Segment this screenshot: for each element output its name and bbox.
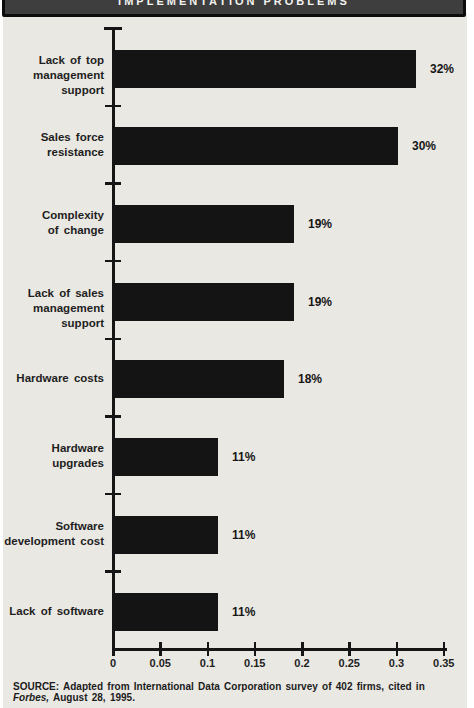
x-tick-label: 0.3: [375, 657, 419, 669]
category-label-line: Sales force: [0, 130, 104, 145]
y-axis-tick: [105, 338, 121, 341]
value-label: 11%: [232, 449, 255, 465]
category-label-line: Lack of sales: [0, 286, 104, 301]
category-label: Softwaredevelopment cost: [0, 519, 104, 549]
category-label-line: development cost: [0, 534, 104, 549]
bar-6: [114, 438, 218, 476]
category-label: Lack of software: [0, 604, 104, 619]
x-tick-label: 0.35: [422, 657, 466, 669]
bar-5: [114, 360, 284, 398]
chart-title: IMPLEMENTATION PROBLEMS: [118, 0, 350, 7]
x-tick-label: 0: [91, 657, 135, 669]
x-tick-label: 0.15: [233, 657, 277, 669]
y-axis-tick: [105, 570, 121, 573]
x-axis-tick: [159, 642, 162, 656]
x-tick-label: 0.05: [138, 657, 182, 669]
category-label-line: Complexity: [0, 208, 104, 223]
value-label: 32%: [430, 61, 454, 77]
y-axis-tick: [105, 260, 121, 263]
category-label-line: of change: [0, 223, 104, 238]
category-label: Hardware costs: [0, 371, 104, 386]
value-label: 19%: [308, 294, 332, 310]
x-axis-tick: [396, 642, 399, 656]
value-label: 19%: [308, 216, 332, 232]
y-axis-tick: [105, 493, 121, 496]
x-tick-label: 0.25: [327, 657, 371, 669]
value-label: 18%: [298, 371, 322, 387]
bar-3: [114, 205, 294, 243]
category-label-line: upgrades: [0, 456, 104, 471]
x-axis-tick: [207, 642, 210, 656]
x-axis-tick: [301, 642, 304, 656]
value-label: 11%: [232, 527, 255, 543]
category-label-line: Lack of software: [0, 604, 104, 619]
y-axis-tick: [105, 182, 121, 185]
y-axis-tick: [105, 415, 121, 418]
y-axis-tick: [105, 105, 121, 108]
category-label-line: Hardware: [0, 441, 104, 456]
value-label: 11%: [232, 604, 255, 620]
x-axis-tick: [254, 642, 257, 656]
source-text-pre: Adapted from International Data Corporat…: [59, 681, 425, 692]
bar-chart: 00.050.10.150.20.250.30.35Lack of topman…: [0, 0, 474, 708]
x-axis-tick: [348, 642, 351, 656]
chart-title-banner: IMPLEMENTATION PROBLEMS: [2, 0, 466, 17]
category-label-line: Lack of top: [0, 53, 104, 68]
source-note: SOURCE: Adapted from International Data …: [13, 681, 465, 703]
bar-8: [114, 593, 218, 631]
source-text-italic: Forbes,: [13, 692, 49, 703]
category-label-line: management support: [0, 68, 104, 98]
x-tick-label: 0.1: [186, 657, 230, 669]
bar-4: [114, 283, 294, 321]
category-label: Sales forceresistance: [0, 130, 104, 160]
y-axis-top-cap: [104, 27, 122, 30]
category-label: Lack of salesmanagement support: [0, 286, 104, 331]
category-label-line: Software: [0, 519, 104, 534]
value-label: 30%: [412, 138, 436, 154]
category-label-line: resistance: [0, 145, 104, 160]
x-axis-tick: [112, 642, 115, 656]
bar-7: [114, 516, 218, 554]
bar-2: [114, 127, 398, 165]
category-label-line: Hardware costs: [0, 371, 104, 386]
source-text-post: August 28, 1995.: [49, 692, 135, 703]
scanned-page: IMPLEMENTATION PROBLEMS 00.050.10.150.20…: [0, 0, 474, 708]
category-label: Lack of topmanagement support: [0, 53, 104, 98]
source-label: SOURCE:: [13, 681, 59, 692]
bar-1: [114, 50, 416, 88]
x-axis-tick: [443, 642, 446, 656]
category-label-line: management support: [0, 301, 104, 331]
x-tick-label: 0.2: [280, 657, 324, 669]
category-label: Hardwareupgrades: [0, 441, 104, 471]
category-label: Complexityof change: [0, 208, 104, 238]
